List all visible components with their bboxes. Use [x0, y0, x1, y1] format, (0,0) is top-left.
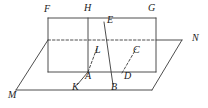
plane-right-edge-N: [152, 40, 182, 90]
figure-canvas: [0, 0, 208, 108]
point-label-a: A: [85, 71, 91, 81]
point-label-l: L: [95, 45, 101, 55]
point-label-k: K: [72, 82, 79, 92]
point-label-d: D: [124, 71, 131, 81]
point-label-b: B: [111, 82, 117, 92]
point-label-f: F: [44, 4, 50, 14]
plane-left-edge-M: [16, 40, 48, 90]
point-label-h: H: [84, 3, 91, 13]
point-label-c: C: [133, 45, 140, 55]
point-label-n: N: [192, 33, 199, 43]
point-label-m: M: [8, 90, 16, 100]
geometry-figure: FHGENLCADKBM: [0, 0, 208, 108]
point-label-g: G: [148, 3, 155, 13]
point-label-e: E: [107, 15, 113, 25]
segment-EB: [104, 22, 113, 85]
